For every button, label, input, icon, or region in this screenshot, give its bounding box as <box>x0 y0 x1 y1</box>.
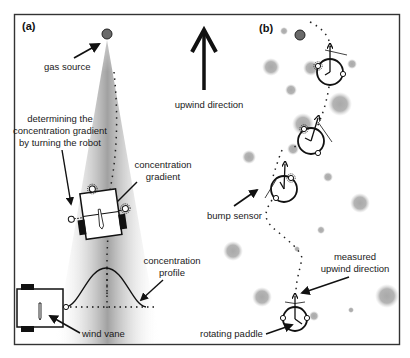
rotating-paddle-right-icon <box>304 315 309 320</box>
panel-a-label: (a) <box>22 20 36 32</box>
conc-gradient-label-1: concentration <box>134 159 191 170</box>
gas-source-icon <box>102 29 112 39</box>
gas-source-label: gas source <box>44 61 90 72</box>
panel-b-label: (b) <box>259 22 273 34</box>
wind-vane-icon <box>39 303 41 320</box>
rotating-paddle-left-icon <box>280 315 285 320</box>
gradient-turn-label-1: determining the <box>27 113 92 124</box>
gas-sensor-icon <box>63 304 68 309</box>
gas-sensor-left-icon <box>68 216 75 223</box>
wind-vane-label: wind vane <box>81 328 125 339</box>
rotating-paddle-label: rotating paddle <box>200 328 263 339</box>
gradient-turn-label-3: by turning the robot <box>19 137 101 148</box>
conc-gradient-label-2: gradient <box>146 171 181 182</box>
measured-label-1: measured <box>334 251 376 262</box>
robot-wind-vane <box>17 284 69 332</box>
bump-sensor-label: bump sensor <box>207 210 262 221</box>
upwind-label: upwind direction <box>175 99 244 110</box>
conc-profile-label-2: profile <box>159 267 185 278</box>
measured-label-2: upwind direction <box>321 263 390 274</box>
gas-source-b-icon <box>295 30 305 40</box>
conc-profile-label-1: concentration <box>143 255 200 266</box>
gradient-turn-label-2: concentration gradient <box>13 125 107 136</box>
diagram-canvas: (a) gas source determining the concentra… <box>0 0 410 358</box>
